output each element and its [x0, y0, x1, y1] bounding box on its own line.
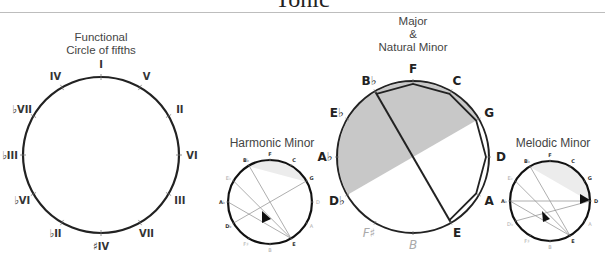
circle-label: IV — [50, 70, 62, 83]
circle-label: F♯ — [524, 238, 529, 244]
circle-label: F — [548, 152, 551, 158]
harmonic-minor-circle — [227, 159, 314, 246]
circle-label: C — [453, 74, 462, 88]
circle-label: A — [485, 194, 495, 208]
circle-label: F♯ — [363, 226, 376, 240]
circle-label: A♭ — [501, 198, 507, 204]
circle-label: A♭ — [318, 150, 333, 164]
major-natural-minor-circle — [335, 79, 491, 235]
circle-label: B — [268, 247, 272, 253]
circle-label: G — [588, 175, 592, 181]
melodic-minor-circle — [509, 160, 592, 243]
functional-circle — [20, 74, 182, 236]
circle-label: ♭II — [49, 227, 61, 240]
circle-label: E♭ — [330, 106, 344, 120]
circle-label: III — [174, 194, 185, 207]
circle-label: B♭ — [362, 74, 377, 88]
circle-label: B♭ — [524, 158, 530, 164]
chord-line — [234, 181, 307, 223]
circle-label: C — [571, 158, 575, 164]
circles-diagram: IVIIVIIIIVII♯IV♭II♭VI♭III♭VIIIVFCGDAEBF♯… — [0, 0, 605, 262]
circle-label: B — [548, 244, 552, 250]
circle-label: D — [594, 198, 598, 204]
circle-label: F — [268, 151, 271, 157]
circle-label: II — [176, 103, 183, 116]
circle-label: E♭ — [226, 175, 232, 181]
circle-label: D — [496, 150, 506, 164]
circle-label: ♭VII — [12, 103, 32, 116]
circle-label: A♭ — [219, 199, 225, 205]
chord-line — [228, 202, 291, 238]
circle-label: D♭ — [225, 223, 232, 229]
circle-label: D — [316, 199, 320, 205]
circle-label: I — [99, 58, 103, 71]
circle-label: D♭ — [507, 221, 513, 227]
chord-line — [234, 181, 291, 238]
circle-label: A — [310, 223, 314, 229]
circle-label: ♭III — [2, 149, 18, 162]
circle-label: G — [484, 106, 494, 120]
circle-label: VII — [139, 227, 154, 240]
circle-label: F — [409, 62, 417, 76]
circle-label: F♯ — [243, 241, 248, 247]
circle-label: E — [571, 238, 575, 244]
circle-label: B — [409, 238, 417, 252]
circle-label: A — [588, 221, 592, 227]
circle-label: ♭VI — [14, 194, 30, 207]
circle-label: E — [453, 226, 461, 240]
circle-label: D♭ — [329, 194, 345, 208]
circle-label: E — [292, 241, 296, 247]
circle-label: VI — [186, 149, 197, 162]
circle-label: B♭ — [243, 157, 249, 163]
circle-label: C — [292, 157, 296, 163]
circle-label: G — [310, 175, 314, 181]
circle-label: V — [143, 70, 151, 83]
circle-label: ♯IV — [93, 240, 109, 253]
circle-label: E♭ — [507, 175, 513, 181]
